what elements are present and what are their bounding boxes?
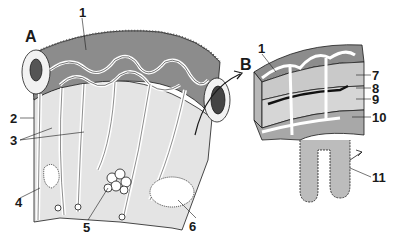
panel-label-b: B	[240, 57, 252, 73]
callout-9: 9	[372, 93, 379, 106]
callout-3: 3	[10, 134, 17, 147]
callout-11: 11	[372, 171, 386, 184]
panel-label-a: A	[25, 29, 37, 45]
callout-10: 10	[372, 111, 386, 124]
callout-5: 5	[83, 221, 90, 234]
panel-b-artwork	[254, 45, 364, 202]
callout-4: 4	[15, 196, 22, 209]
callout-1-b: 1	[258, 42, 265, 55]
diagram-artwork	[0, 0, 397, 245]
callout-2: 2	[10, 112, 17, 125]
panel-a-artwork	[22, 31, 242, 230]
anatomical-diagram: A B 1 2 3 4 5 6 1 7 8 9 10 11	[0, 0, 397, 245]
callout-6: 6	[189, 220, 196, 233]
callout-1-a: 1	[79, 6, 86, 19]
